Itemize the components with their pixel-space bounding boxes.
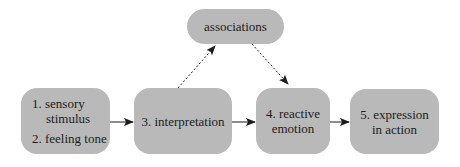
node-label: 3. interpretation bbox=[141, 114, 224, 129]
node-label: 2. feeling tone bbox=[32, 131, 107, 146]
node-label: stimulus bbox=[32, 111, 90, 126]
node-label: in action bbox=[372, 122, 417, 137]
dotted-arrow-associations-to-reactive bbox=[252, 44, 288, 84]
node-sensory-stimulus-feeling-tone: 1. sensory stimulus 2. feeling tone bbox=[21, 88, 110, 154]
node-associations: associations bbox=[187, 9, 284, 44]
node-label: 1. sensory bbox=[32, 96, 85, 111]
node-label: associations bbox=[204, 19, 267, 34]
node-label: 4. reactive bbox=[266, 106, 320, 121]
node-expression-in-action: 5. expression in action bbox=[350, 89, 439, 154]
dotted-arrow-interpretation-to-associations bbox=[178, 46, 215, 88]
node-reactive-emotion: 4. reactive emotion bbox=[256, 88, 330, 154]
node-interpretation: 3. interpretation bbox=[134, 88, 232, 154]
node-label: emotion bbox=[272, 121, 315, 136]
node-label: 5. expression bbox=[360, 107, 429, 122]
